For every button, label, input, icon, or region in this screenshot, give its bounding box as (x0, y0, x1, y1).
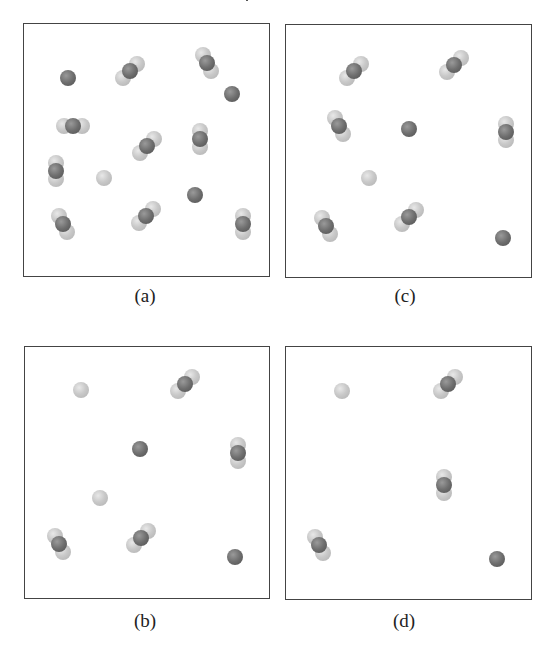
panel-d (285, 346, 532, 600)
panel-label-c: (c) (375, 285, 435, 307)
single-dark-atom (227, 549, 243, 565)
dark-atom (199, 55, 215, 71)
top-text-fragment (246, 0, 248, 1)
dark-atom (122, 63, 138, 79)
single-light-atom (96, 170, 112, 186)
dark-atom (311, 537, 327, 553)
single-dark-atom (187, 187, 203, 203)
panel-label-b: (b) (115, 610, 175, 632)
panel-c (285, 24, 532, 278)
single-dark-atom (495, 230, 511, 246)
dark-atom (65, 118, 81, 134)
dark-atom (318, 218, 334, 234)
panel-b (24, 346, 270, 599)
dark-atom (138, 208, 154, 224)
dark-atom (331, 118, 347, 134)
single-dark-atom (60, 70, 76, 86)
single-light-atom (334, 383, 350, 399)
dark-atom (235, 216, 251, 232)
dark-atom (446, 57, 462, 73)
dark-atom (346, 63, 362, 79)
dark-atom (177, 376, 193, 392)
dark-atom (230, 445, 246, 461)
single-light-atom (73, 382, 89, 398)
dark-atom (440, 376, 456, 392)
dark-atom (139, 138, 155, 154)
single-light-atom (92, 490, 108, 506)
single-dark-atom (401, 121, 417, 137)
single-dark-atom (224, 86, 240, 102)
dark-atom (192, 131, 208, 147)
panel-a (23, 23, 270, 277)
single-dark-atom (489, 551, 505, 567)
panel-label-a: (a) (115, 285, 175, 307)
dark-atom (436, 477, 452, 493)
single-dark-atom (132, 441, 148, 457)
dark-atom (498, 124, 514, 140)
panel-label-d: (d) (374, 610, 434, 632)
dark-atom (401, 209, 417, 225)
dark-atom (55, 216, 71, 232)
dark-atom (133, 530, 149, 546)
single-light-atom (361, 170, 377, 186)
dark-atom (48, 163, 64, 179)
dark-atom (51, 536, 67, 552)
